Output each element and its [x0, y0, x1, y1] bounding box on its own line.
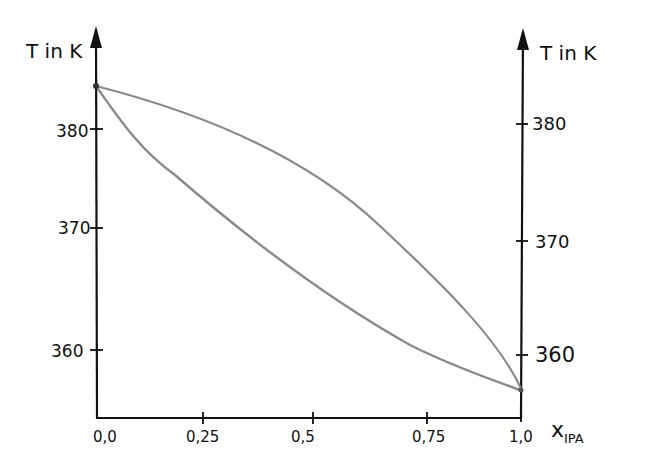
end-point-marker — [519, 388, 524, 393]
x-tick-label: 0,0 — [93, 428, 117, 446]
x-axis-label-sub: IPA — [564, 431, 584, 446]
dew-curve — [96, 86, 522, 391]
bubble-curve — [96, 86, 522, 391]
left-tick-label: 380 — [56, 121, 88, 141]
right-y-label: T in K — [539, 41, 597, 65]
right-axis-arrow-icon — [517, 28, 529, 50]
x-tick-label: 0,5 — [291, 428, 315, 446]
right-tick-label: 360 — [535, 343, 575, 367]
x-axis-label: xIPA — [551, 417, 584, 446]
right-tick-label: 380 — [532, 113, 566, 134]
right-tick-label: 370 — [535, 231, 569, 252]
x-tick-label: 0,25 — [186, 428, 219, 446]
left-y-label: T in K — [25, 39, 83, 63]
x-tick-label: 0,75 — [412, 428, 445, 446]
right-y-axis — [521, 32, 523, 418]
left-axis-arrow-icon — [90, 26, 102, 48]
x-axis-label-main: x — [551, 417, 564, 442]
x-tick-label: 1,0 — [509, 428, 533, 446]
left-tick-label: 360 — [51, 341, 83, 361]
left-tick-label: 370 — [58, 218, 90, 238]
phase-diagram-chart: T in K T in K 380 370 360 380 370 360 0,… — [0, 0, 645, 467]
start-point-marker — [93, 83, 99, 89]
